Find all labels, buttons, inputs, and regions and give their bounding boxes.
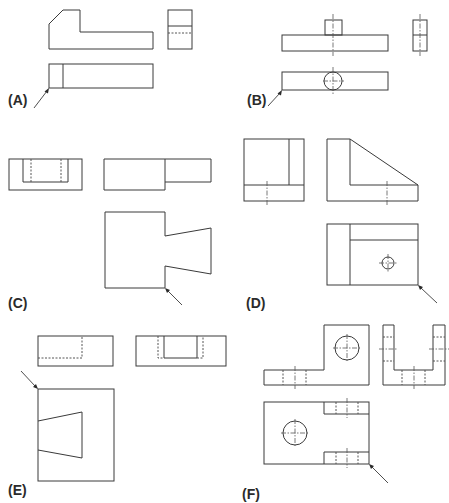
panel-e-front-view — [38, 336, 113, 366]
panel-a — [34, 10, 192, 108]
panel-e-top-view — [38, 389, 114, 481]
panel-a-label: (A) — [8, 93, 27, 107]
panel-f-arrow-icon — [369, 464, 388, 483]
panel-f — [264, 325, 449, 483]
panel-e-arrow-icon — [21, 371, 38, 389]
panel-e — [21, 336, 226, 481]
panel-d — [244, 139, 437, 303]
panel-b-front-view — [282, 35, 388, 51]
panel-f-front-view — [264, 325, 369, 385]
panel-b-arrow-icon — [268, 90, 282, 106]
panel-d-side-view — [244, 139, 304, 201]
panel-e-side-view — [136, 336, 226, 366]
panel-b — [268, 14, 427, 106]
panel-b-label: (B) — [247, 93, 266, 107]
panel-c — [9, 159, 211, 305]
panel-f-label: (F) — [242, 487, 260, 501]
panel-d-label: (D) — [246, 296, 265, 310]
panel-c-side-view — [9, 159, 82, 190]
orthographic-drawing-sheet — [0, 0, 449, 503]
panel-e-label: (E) — [8, 483, 27, 497]
panel-f-top-view — [264, 402, 369, 464]
panel-d-arrow-icon — [418, 285, 437, 303]
panel-c-arrow-icon — [165, 288, 182, 305]
panel-c-front-view — [104, 159, 211, 190]
panel-d-top-view — [327, 224, 418, 285]
panel-a-side-view — [168, 10, 192, 49]
panel-a-top-view — [49, 64, 153, 88]
panel-a-arrow-icon — [34, 88, 49, 108]
panel-c-label: (C) — [8, 296, 27, 310]
panel-c-top-view — [105, 212, 211, 288]
panel-a-front-view — [49, 10, 153, 49]
panel-d-front-view — [327, 139, 418, 201]
